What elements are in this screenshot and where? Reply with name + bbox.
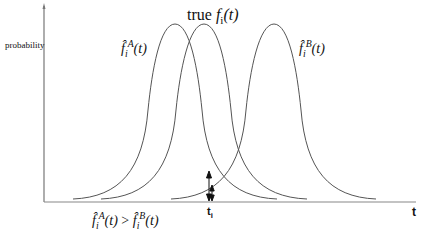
ineq-left-arg: (t) [105,213,118,228]
ineq-right-sub: i [137,220,140,231]
diagram-canvas [0,0,428,238]
marker-t-i-label: ti [207,206,213,217]
inequality-label: f̂iA(t) > f̂iB(t) [92,214,159,228]
curve-B-arg: (t) [312,41,325,56]
x-axis-label: t [412,206,416,218]
y-axis [43,3,46,202]
true-prefix: true [187,6,212,23]
marker-sub: i [211,211,213,220]
curve-A-sub: i [125,48,128,59]
true-curve-label: true fi(t) [187,7,239,23]
curve-A-arg: (t) [134,41,147,56]
ineq-left-sub: i [96,220,99,231]
curve-B-sub: i [303,48,306,59]
curve-B-label: f̂iB(t) [299,42,325,56]
ineq-operator: > [121,213,129,228]
y-axis-label: probability [5,41,45,50]
true-arg: (t) [223,6,238,23]
ineq-right-arg: (t) [145,213,158,228]
curve-f-hat-A [73,24,277,199]
curve-A-label: f̂iA(t) [121,42,147,56]
